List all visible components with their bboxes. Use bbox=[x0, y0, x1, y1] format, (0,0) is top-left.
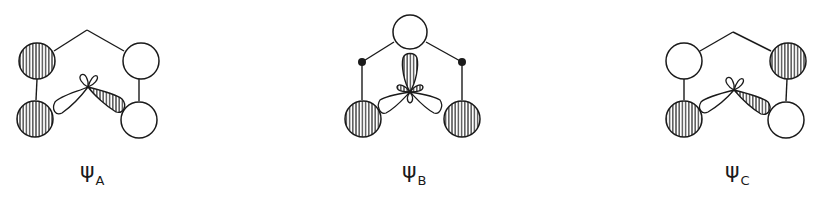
label-psi-a: ψA bbox=[80, 158, 104, 183]
psi-symbol: ψ bbox=[402, 158, 417, 183]
bond-line bbox=[362, 42, 394, 62]
orbital-shaded bbox=[19, 43, 55, 79]
orbital-shaded bbox=[666, 101, 702, 137]
lobe-small-open bbox=[726, 77, 734, 90]
orbital-open bbox=[393, 15, 427, 49]
orbital-open bbox=[121, 102, 157, 138]
lobe-left-open bbox=[54, 87, 88, 114]
orbital-open bbox=[666, 43, 702, 79]
atom-dot bbox=[458, 58, 466, 66]
label-psi-b: ψB bbox=[402, 158, 426, 183]
label-psi-c: ψC bbox=[725, 158, 750, 183]
bond-line bbox=[54, 30, 87, 51]
orbital-open bbox=[123, 43, 159, 79]
bond-line bbox=[700, 32, 733, 51]
panel-psi-b bbox=[345, 15, 480, 137]
panel-psi-a bbox=[17, 30, 159, 138]
subscript: B bbox=[418, 173, 427, 188]
orbital-open bbox=[768, 102, 804, 138]
lobe-left-open bbox=[378, 92, 410, 113]
lobe-small-open bbox=[80, 74, 88, 87]
bond-line bbox=[426, 42, 462, 62]
subscript: A bbox=[96, 173, 105, 188]
lobe-bottom-open bbox=[407, 92, 412, 103]
psi-symbol: ψ bbox=[80, 158, 95, 183]
panel-psi-c bbox=[666, 32, 806, 138]
psi-symbol: ψ bbox=[725, 158, 740, 183]
lobe-left-open bbox=[700, 90, 734, 113]
lobe-right-shaded bbox=[734, 90, 770, 114]
orbital-shaded bbox=[17, 101, 53, 137]
subscript: C bbox=[741, 173, 750, 188]
orbital-shaded bbox=[770, 43, 806, 79]
bond-line bbox=[36, 79, 37, 100]
orbital-shaded bbox=[345, 101, 381, 137]
lobe-right-open bbox=[410, 92, 442, 113]
orbital-shaded bbox=[444, 101, 480, 137]
bond-line bbox=[87, 30, 124, 51]
lobe-right-shaded bbox=[88, 87, 125, 112]
bond-line bbox=[786, 79, 787, 101]
bond-line bbox=[733, 32, 771, 51]
lobe-small-open bbox=[734, 79, 743, 90]
atom-dot bbox=[358, 58, 366, 66]
lobe-small-open bbox=[88, 76, 97, 87]
